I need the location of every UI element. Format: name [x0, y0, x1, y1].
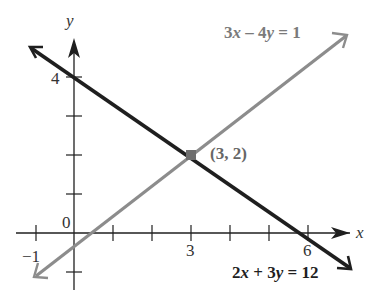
- y-tick-label-4: 4: [51, 69, 60, 88]
- origin-label: 0: [62, 213, 71, 232]
- linear-system-graph: y x 4 0 −1 3 6 (3, 2) 3x – 4y = 1 2x + 3…: [0, 0, 370, 307]
- x-axis-label: x: [355, 223, 364, 242]
- intersection-point: [186, 150, 196, 160]
- x-tick-label-6: 6: [303, 241, 312, 260]
- x-tick-label-neg1: −1: [22, 247, 40, 266]
- x-tick-label-3: 3: [186, 241, 195, 260]
- line1-equation-label: 2x + 3y = 12: [232, 263, 318, 282]
- y-axis-label: y: [64, 11, 74, 30]
- line2-equation-label: 3x – 4y = 1: [224, 23, 301, 42]
- intersection-label: (3, 2): [210, 144, 247, 163]
